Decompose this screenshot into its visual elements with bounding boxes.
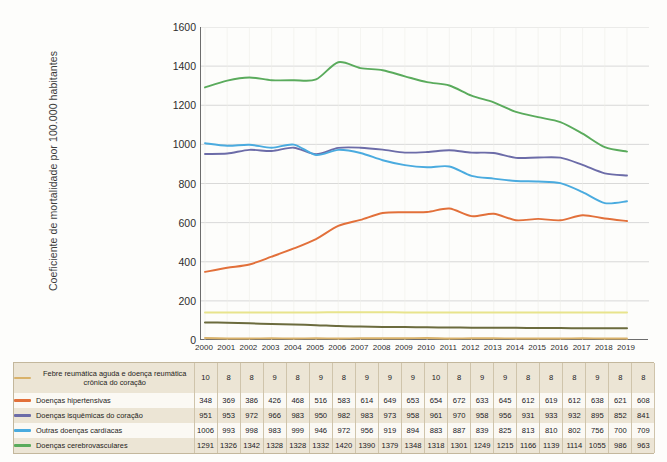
table-cell: 8 (286, 363, 309, 393)
table-cell: 950 (309, 408, 332, 423)
table-cell: 998 (240, 423, 263, 438)
table-cell: 10 (424, 363, 447, 393)
table-cell: 895 (586, 408, 609, 423)
table-cell: 963 (632, 438, 655, 453)
table-cell: 839 (471, 423, 494, 438)
table-cell: 9 (401, 363, 424, 393)
legend-cell[interactable]: Doenças cerebrovasculares (14, 438, 194, 453)
table-cell: 931 (517, 408, 540, 423)
plot-svg (201, 27, 649, 340)
legend-color-swatch (14, 444, 31, 446)
table-cell: 887 (448, 423, 471, 438)
table-row: Febre reumática aguda e doença reumática… (14, 363, 655, 393)
table-cell: 883 (424, 423, 447, 438)
table-cell: 1379 (378, 438, 401, 453)
table-cell: 645 (494, 393, 517, 408)
table-cell: 8 (563, 363, 586, 393)
table-cell: 966 (263, 408, 286, 423)
legend-cell[interactable]: Doenças isquêmicas do coração (14, 408, 194, 423)
table-cell: 970 (448, 408, 471, 423)
table-cell: 1291 (194, 438, 217, 453)
table-cell: 633 (471, 393, 494, 408)
y-tick-label: 1200 (160, 100, 196, 110)
table-cell: 653 (401, 393, 424, 408)
table-cell: 9 (355, 363, 378, 393)
table-cell: 516 (309, 393, 332, 408)
table-cell: 919 (378, 423, 401, 438)
table-cell: 348 (194, 393, 217, 408)
table-cell: 9 (471, 363, 494, 393)
table-cell: 802 (563, 423, 586, 438)
table-cell: 672 (448, 393, 471, 408)
table-cell: 1328 (263, 438, 286, 453)
table-cell: 1328 (286, 438, 309, 453)
table-cell: 8 (217, 363, 240, 393)
table-cell: 958 (401, 408, 424, 423)
table-cell: 983 (355, 408, 378, 423)
table-cell: 852 (609, 408, 632, 423)
table-cell: 932 (563, 408, 586, 423)
table-cell: 961 (424, 408, 447, 423)
table-cell: 1318 (424, 438, 447, 453)
table-cell: 8 (609, 363, 632, 393)
table-cell: 8 (332, 363, 355, 393)
table-cell: 709 (632, 423, 655, 438)
table-cell: 386 (240, 393, 263, 408)
legend-label: Doenças hipertensivas (36, 396, 111, 405)
table-row: Doenças hipertensivas3483693864264685165… (14, 393, 655, 408)
table-cell: 468 (286, 393, 309, 408)
table-cell: 9 (494, 363, 517, 393)
y-tick-label: 1000 (160, 139, 196, 149)
table-cell: 1006 (194, 423, 217, 438)
legend-color-swatch (14, 429, 31, 431)
table-cell: 369 (217, 393, 240, 408)
table-cell: 700 (609, 423, 632, 438)
table-cell: 953 (217, 408, 240, 423)
table-cell: 608 (632, 393, 655, 408)
table-cell: 958 (471, 408, 494, 423)
table-cell: 841 (632, 408, 655, 423)
table-cell: 1342 (240, 438, 263, 453)
table-cell: 654 (424, 393, 447, 408)
legend-cell[interactable]: Outras doenças cardíacas (14, 423, 194, 438)
series-line (205, 62, 627, 152)
table-cell: 8 (540, 363, 563, 393)
gridlines (201, 27, 649, 340)
table-cell: 621 (609, 393, 632, 408)
table-cell: 583 (332, 393, 355, 408)
series-lines (205, 62, 627, 339)
table-cell: 619 (540, 393, 563, 408)
data-table: Febre reumática aguda e doença reumática… (14, 363, 655, 453)
table-cell: 825 (494, 423, 517, 438)
y-tick-label: 1600 (160, 22, 196, 32)
x-tick-label: 2019 (611, 343, 641, 352)
y-tick-label: 600 (160, 218, 196, 228)
legend-label: Outras doenças cardíacas (36, 426, 122, 435)
legend-label: Febre reumática aguda e doença reumática… (36, 369, 194, 388)
table-cell: 9 (263, 363, 286, 393)
table-cell: 1326 (217, 438, 240, 453)
table-cell: 638 (586, 393, 609, 408)
table-cell: 933 (540, 408, 563, 423)
legend-cell[interactable]: Febre reumática aguda e doença reumática… (14, 363, 194, 393)
table-cell: 894 (401, 423, 424, 438)
table-cell: 986 (609, 438, 632, 453)
table-cell: 946 (309, 423, 332, 438)
line-chart: Coeficiente de mortalidade por 100.000 h… (0, 0, 667, 358)
table-cell: 1390 (355, 438, 378, 453)
table-cell: 982 (332, 408, 355, 423)
legend-color-swatch (14, 377, 31, 379)
legend-color-swatch (14, 399, 31, 401)
table-cell: 1055 (586, 438, 609, 453)
legend-cell[interactable]: Doenças hipertensivas (14, 393, 194, 408)
legend-label: Doenças isquêmicas do coração (36, 411, 143, 420)
table-cell: 810 (540, 423, 563, 438)
series-line (205, 208, 627, 271)
table-cell: 8 (517, 363, 540, 393)
table-cell: 1420 (332, 438, 355, 453)
table-cell: 612 (517, 393, 540, 408)
table-cell: 426 (263, 393, 286, 408)
series-line (205, 322, 627, 328)
y-axis-ticks: 16001400120010008006004002000 (152, 0, 196, 358)
table-cell: 999 (286, 423, 309, 438)
